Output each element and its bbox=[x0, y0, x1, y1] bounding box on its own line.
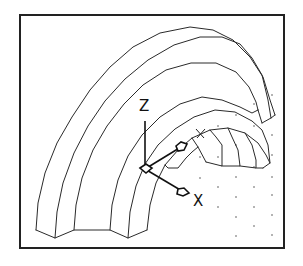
y-axis bbox=[145, 147, 181, 169]
x-axis-label: X bbox=[193, 192, 203, 210]
inner-step-2 bbox=[206, 130, 222, 166]
middle-arc-inner bbox=[128, 110, 270, 238]
viewport-frame bbox=[20, 15, 284, 248]
outer-arc-top bbox=[36, 27, 275, 230]
bottom-notch-left bbox=[36, 230, 147, 238]
inner-arc-outer-band bbox=[74, 63, 258, 230]
outer-band-side bbox=[258, 110, 262, 123]
outer-band-end bbox=[262, 115, 275, 123]
ucs-icon: Z X bbox=[139, 97, 205, 210]
x-axis bbox=[145, 169, 182, 191]
inner-step-3 bbox=[222, 128, 240, 166]
drawing-canvas: Z X bbox=[0, 0, 303, 266]
wireframe-part bbox=[36, 27, 275, 238]
middle-arc-outer bbox=[110, 97, 258, 230]
cad-viewport[interactable]: Z X bbox=[0, 0, 303, 266]
y-axis-label bbox=[196, 129, 205, 138]
y-arrow-icon bbox=[176, 142, 187, 151]
x-arrow-icon bbox=[177, 188, 189, 196]
outer-arc-front bbox=[55, 37, 271, 238]
inner-step-4 bbox=[240, 133, 256, 168]
z-axis-label: Z bbox=[139, 97, 149, 115]
